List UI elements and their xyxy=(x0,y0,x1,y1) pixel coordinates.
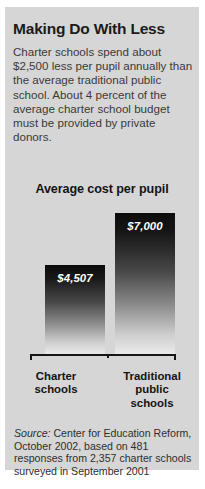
axis-tick-middle xyxy=(107,354,109,358)
axis-tick-left xyxy=(30,354,32,360)
category-label-charter: Charter schools xyxy=(5,370,103,410)
category-label-traditional-line2: public xyxy=(105,383,199,396)
bar-traditional-public-schools: $7,000 xyxy=(115,213,175,355)
chart-baseline-axis xyxy=(30,354,176,356)
category-axis-labels: Charter schools Traditional public schoo… xyxy=(5,370,199,410)
bar-value-label-charter: $4,507 xyxy=(45,272,105,284)
infographic-panel: Making Do With Less Charter schools spen… xyxy=(5,7,199,470)
category-label-traditional-line3: schools xyxy=(105,397,199,410)
category-label-traditional-line1: Traditional xyxy=(105,370,199,383)
page-title: Making Do With Less xyxy=(13,20,193,37)
bar-chart-plot-area: $4,507 $7,000 xyxy=(5,203,199,363)
category-label-charter-line2: schools xyxy=(9,383,103,396)
category-label-charter-line1: Charter xyxy=(9,370,103,383)
category-label-traditional: Traditional public schools xyxy=(103,370,199,410)
chart-title: Average cost per pupil xyxy=(5,182,199,196)
bar-value-label-traditional: $7,000 xyxy=(115,220,175,232)
bar-charter-schools: $4,507 xyxy=(45,265,105,355)
source-note: Source: Center for Education Reform, Oct… xyxy=(14,427,194,477)
summary-paragraph: Charter schools spend about $2,500 less … xyxy=(13,45,193,144)
axis-tick-right xyxy=(174,354,176,360)
source-label: Source: xyxy=(14,427,51,439)
